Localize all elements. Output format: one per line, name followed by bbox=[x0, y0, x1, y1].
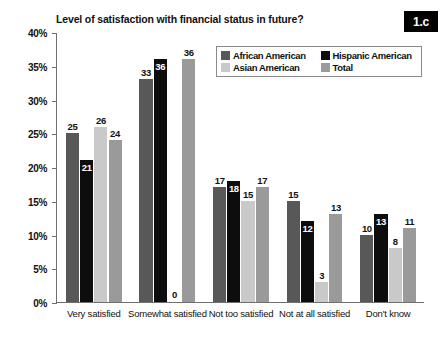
bar-value-label: 15 bbox=[243, 189, 253, 200]
y-axis-tick-mark bbox=[52, 202, 57, 203]
bar-value-label: 21 bbox=[82, 162, 92, 173]
bar[interactable]: 36 bbox=[154, 59, 167, 302]
legend-item[interactable]: Asian American bbox=[221, 62, 318, 73]
bar-value-label: 26 bbox=[96, 115, 106, 126]
bar-value-label: 18 bbox=[229, 183, 239, 194]
chart-legend: African AmericanHispanic AmericanAsian A… bbox=[216, 46, 422, 77]
y-axis-tick-mark bbox=[52, 168, 57, 169]
legend-label: Asian American bbox=[233, 62, 300, 73]
bar[interactable]: 11 bbox=[403, 228, 416, 302]
bar[interactable]: 21 bbox=[80, 160, 93, 302]
y-axis-tick-label: 40% bbox=[3, 28, 47, 39]
bar[interactable]: 8 bbox=[389, 248, 402, 302]
y-axis-tick-mark bbox=[52, 134, 57, 135]
y-axis-tick-label: 35% bbox=[3, 61, 47, 72]
legend-label: Hispanic American bbox=[333, 50, 412, 61]
legend-label: African American bbox=[233, 50, 306, 61]
bar-value-label: 11 bbox=[405, 216, 414, 227]
y-axis-tick-mark bbox=[52, 33, 57, 34]
bar-value-label: 15 bbox=[288, 189, 298, 200]
x-axis-category-label: Not at all satisfied bbox=[279, 308, 350, 319]
bar[interactable]: 13 bbox=[374, 214, 387, 302]
bar-value-label: 12 bbox=[303, 223, 313, 234]
x-axis-category-label: Very satisfied bbox=[67, 308, 121, 319]
bar[interactable]: 25 bbox=[66, 133, 79, 302]
bar[interactable]: 18 bbox=[227, 181, 240, 303]
bar-group: 25212624 bbox=[57, 33, 131, 302]
bar-value-label: 10 bbox=[362, 223, 372, 234]
bar-value-label: 0 bbox=[172, 289, 177, 300]
bar[interactable]: 36 bbox=[182, 59, 195, 302]
y-axis-tick-label: 25% bbox=[3, 129, 47, 140]
y-axis-tick-label: 30% bbox=[3, 95, 47, 106]
y-axis-tick-label: 20% bbox=[3, 163, 47, 174]
legend-swatch-icon bbox=[221, 51, 230, 60]
bar-value-label: 25 bbox=[68, 121, 78, 132]
bar-value-label: 8 bbox=[393, 236, 398, 247]
y-axis-tick-mark bbox=[52, 236, 57, 237]
legend-swatch-icon bbox=[321, 63, 330, 72]
bar-value-label: 13 bbox=[331, 202, 341, 213]
legend-item[interactable]: African American bbox=[221, 50, 318, 61]
bar[interactable]: 3 bbox=[315, 282, 328, 302]
bar-group: 3336036 bbox=[131, 33, 205, 302]
y-axis-tick-label: 10% bbox=[3, 230, 47, 241]
bar[interactable]: 26 bbox=[94, 127, 107, 303]
x-axis-category-label: Not too satisfied bbox=[209, 308, 274, 319]
legend-label: Total bbox=[333, 62, 353, 73]
bar[interactable]: 10 bbox=[360, 235, 373, 303]
bar-value-label: 17 bbox=[257, 175, 267, 186]
bar-value-label: 13 bbox=[376, 216, 386, 227]
chart-container: Level of satisfaction with financial sta… bbox=[0, 0, 445, 337]
legend-swatch-icon bbox=[221, 63, 230, 72]
bar-value-label: 17 bbox=[215, 175, 225, 186]
y-axis-tick-label: 5% bbox=[3, 264, 47, 275]
y-axis-tick-mark bbox=[52, 269, 57, 270]
bar-value-label: 36 bbox=[184, 47, 194, 58]
bar[interactable]: 17 bbox=[213, 187, 226, 302]
bar-value-label: 24 bbox=[110, 128, 120, 139]
bar[interactable]: 24 bbox=[109, 140, 122, 302]
bar[interactable]: 15 bbox=[241, 201, 254, 302]
bar[interactable]: 33 bbox=[139, 79, 152, 302]
bar[interactable]: 12 bbox=[301, 221, 314, 302]
bar[interactable]: 17 bbox=[256, 187, 269, 302]
x-axis-category-label: Somewhat satisfied bbox=[128, 308, 207, 319]
chart-title: Level of satisfaction with financial sta… bbox=[56, 13, 303, 25]
legend-item[interactable]: Hispanic American bbox=[321, 50, 418, 61]
bar-value-label: 3 bbox=[319, 270, 324, 281]
legend-item[interactable]: Total bbox=[321, 62, 418, 73]
y-axis-tick-mark bbox=[52, 303, 57, 304]
figure-number-badge: 1.c bbox=[404, 11, 438, 32]
y-axis-tick-mark bbox=[52, 67, 57, 68]
bar-value-label: 33 bbox=[141, 67, 151, 78]
y-axis-tick-label: 0% bbox=[3, 298, 47, 309]
y-axis-tick-label: 15% bbox=[3, 196, 47, 207]
bar[interactable]: 15 bbox=[287, 201, 300, 302]
x-axis-category-label: Don't know bbox=[366, 308, 411, 319]
legend-swatch-icon bbox=[321, 51, 330, 60]
bar-value-label: 36 bbox=[155, 61, 165, 72]
bar[interactable]: 13 bbox=[329, 214, 342, 302]
y-axis-tick-mark bbox=[52, 101, 57, 102]
